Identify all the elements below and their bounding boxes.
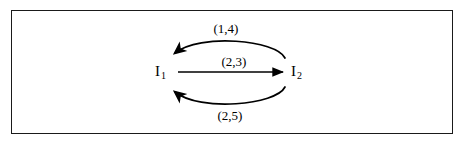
- edge-label-bottom: (2,5): [200, 108, 260, 124]
- node-i2-subscript: 2: [297, 70, 302, 81]
- edge-label-top: (1,4): [196, 21, 256, 37]
- edge-bottom-path: [175, 87, 285, 104]
- figure-root: I1 I2 (1,4) (2,3) (2,5): [0, 0, 465, 145]
- node-i1: I1: [155, 63, 165, 80]
- node-i1-base: I: [155, 63, 160, 79]
- node-i2: I2: [291, 63, 301, 80]
- node-i2-base: I: [291, 63, 296, 79]
- edge-label-middle: (2,3): [204, 54, 264, 70]
- node-i1-subscript: 1: [161, 70, 166, 81]
